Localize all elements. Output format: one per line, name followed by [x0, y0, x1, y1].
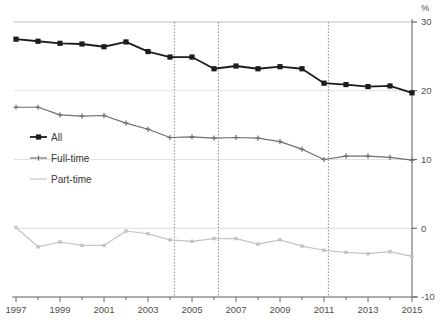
data-point [234, 237, 237, 240]
x-tick-label-2009: 2009 [269, 304, 290, 315]
data-point [233, 63, 238, 68]
data-point [278, 238, 281, 241]
legend-item-all[interactable]: All [30, 132, 62, 143]
data-point [35, 39, 40, 44]
data-point [79, 41, 84, 46]
legend-label: Part-time [51, 174, 92, 185]
data-point [365, 84, 370, 89]
data-point [167, 54, 172, 59]
legend-item-part-time[interactable]: Part-time [30, 174, 92, 185]
data-point [343, 82, 348, 87]
series-part-time [14, 226, 413, 258]
data-point [388, 250, 391, 253]
data-point [189, 54, 194, 59]
x-tick-label-2011: 2011 [314, 304, 334, 315]
data-point [410, 255, 413, 258]
data-point [211, 66, 216, 71]
legend-label: All [51, 132, 62, 143]
data-point [145, 49, 150, 54]
data-point [322, 249, 325, 252]
data-point [256, 242, 259, 245]
data-point [277, 64, 282, 69]
data-point [409, 90, 414, 95]
data-point [321, 81, 326, 86]
data-point [344, 251, 347, 254]
data-point [124, 229, 127, 232]
data-point [123, 39, 128, 44]
x-tick-label-2007: 2007 [225, 304, 246, 315]
data-point [36, 245, 39, 248]
series-all [13, 37, 414, 96]
legend-item-full-time[interactable]: Full-time [30, 153, 90, 164]
line-chart: 3020100-10%19971999200120032005200720092… [0, 0, 448, 324]
data-point [212, 237, 215, 240]
series-line-0 [16, 39, 412, 93]
x-tick-label-1997: 1997 [5, 304, 26, 315]
data-point [13, 37, 18, 42]
legend-label: Full-time [51, 153, 90, 164]
x-tick-label-1999: 1999 [49, 304, 70, 315]
data-point [57, 41, 62, 46]
chart-container: 3020100-10%19971999200120032005200720092… [0, 0, 448, 324]
series-line-2 [16, 228, 412, 257]
y-tick-label-20: 20 [421, 85, 432, 96]
data-point [146, 232, 149, 235]
x-tick-label-2013: 2013 [357, 304, 378, 315]
data-point [80, 244, 83, 247]
legend-marker-square-icon [36, 134, 41, 139]
y-tick-label--10: -10 [421, 291, 435, 302]
data-point [14, 226, 17, 229]
data-point [366, 252, 369, 255]
y-tick-label-10: 10 [421, 154, 432, 165]
data-point [102, 244, 105, 247]
y-axis-unit-label: % [421, 2, 430, 13]
data-point [300, 244, 303, 247]
x-tick-label-2001: 2001 [93, 304, 114, 315]
data-point [299, 66, 304, 71]
data-point [168, 238, 171, 241]
y-tick-label-30: 30 [421, 16, 432, 27]
data-point [387, 83, 392, 88]
x-tick-label-2005: 2005 [181, 304, 202, 315]
x-tick-label-2015: 2015 [401, 304, 422, 315]
data-point [190, 240, 193, 243]
y-tick-label-0: 0 [421, 223, 426, 234]
data-point [255, 66, 260, 71]
data-point [101, 44, 106, 49]
x-tick-label-2003: 2003 [137, 304, 158, 315]
data-point [58, 240, 61, 243]
